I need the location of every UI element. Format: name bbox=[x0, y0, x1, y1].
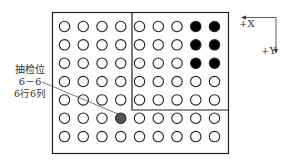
grid-cell bbox=[116, 58, 126, 68]
grid-cell bbox=[209, 131, 219, 141]
grid-cell bbox=[172, 131, 182, 141]
grid-cell bbox=[116, 21, 126, 31]
grid-cell bbox=[59, 113, 69, 123]
grid-cell-filled bbox=[209, 40, 219, 50]
grid-cell bbox=[78, 113, 88, 123]
grid-cell bbox=[134, 113, 144, 123]
grid-cell bbox=[116, 131, 126, 141]
grid-cell bbox=[134, 76, 144, 86]
grid-cell bbox=[134, 40, 144, 50]
grid-cell bbox=[153, 113, 163, 123]
grid-cell-filled bbox=[191, 58, 201, 68]
grid-cell bbox=[97, 40, 107, 50]
grid-cell bbox=[59, 21, 69, 31]
grid-cell-filled bbox=[209, 58, 219, 68]
grid-cell bbox=[78, 40, 88, 50]
grid-cell bbox=[97, 76, 107, 86]
grid-cell bbox=[191, 113, 201, 123]
grid-cell-sample bbox=[116, 113, 126, 123]
grid-cell bbox=[59, 131, 69, 141]
grid-cell bbox=[97, 113, 107, 123]
y-axis-label: +Y bbox=[261, 45, 276, 57]
grid-cell-filled bbox=[191, 21, 201, 31]
grid-cell bbox=[209, 113, 219, 123]
grid-cell-filled bbox=[191, 40, 201, 50]
annotation-title: 抽检位 bbox=[8, 64, 52, 76]
grid-cell bbox=[78, 95, 88, 105]
grid-cell bbox=[153, 58, 163, 68]
grid-cell bbox=[172, 76, 182, 86]
grid-cell bbox=[59, 40, 69, 50]
grid-cell bbox=[191, 76, 201, 86]
grid-cell bbox=[97, 21, 107, 31]
grid-cell bbox=[153, 131, 163, 141]
grid-cell bbox=[78, 131, 88, 141]
grid-cell bbox=[59, 58, 69, 68]
grid-cell bbox=[59, 76, 69, 86]
grid-cell bbox=[209, 95, 219, 105]
grid-circles bbox=[59, 21, 219, 142]
sample-annotation: 抽检位 6－6 6行6列 bbox=[8, 64, 52, 100]
grid-cell bbox=[209, 76, 219, 86]
grid-cell bbox=[116, 76, 126, 86]
grid-cell bbox=[134, 131, 144, 141]
grid-cell bbox=[97, 131, 107, 141]
grid-cell bbox=[97, 95, 107, 105]
grid-cell bbox=[78, 76, 88, 86]
grid-cell bbox=[134, 95, 144, 105]
grid-cell bbox=[153, 95, 163, 105]
grid-cell bbox=[78, 21, 88, 31]
grid-cell bbox=[134, 58, 144, 68]
grid-cell bbox=[172, 58, 182, 68]
grid-cell bbox=[153, 21, 163, 31]
annotation-code: 6－6 bbox=[8, 76, 52, 88]
grid-cell bbox=[172, 113, 182, 123]
grid-cell bbox=[172, 21, 182, 31]
grid-cell bbox=[172, 95, 182, 105]
grid-cell bbox=[191, 95, 201, 105]
grid-cell bbox=[59, 95, 69, 105]
annotation-position: 6行6列 bbox=[8, 88, 52, 100]
grid-cell bbox=[97, 58, 107, 68]
grid-cell bbox=[153, 76, 163, 86]
grid-cell bbox=[134, 21, 144, 31]
grid-cell bbox=[191, 131, 201, 141]
grid-cell bbox=[116, 95, 126, 105]
grid-cell bbox=[153, 40, 163, 50]
grid-cell-filled bbox=[209, 21, 219, 31]
grid-cell bbox=[116, 40, 126, 50]
grid-cell bbox=[172, 40, 182, 50]
x-axis-label: +X bbox=[239, 18, 255, 30]
grid-cell bbox=[78, 58, 88, 68]
